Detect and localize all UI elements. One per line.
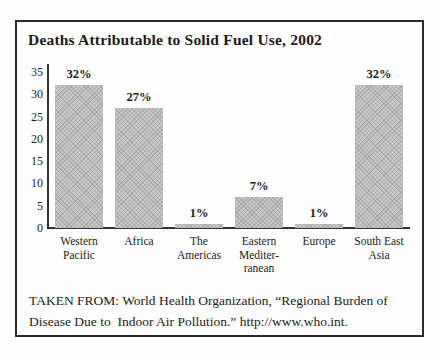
- x-tick-label: Africa: [109, 235, 169, 249]
- x-tick-label: WesternPacific: [49, 235, 109, 262]
- bar-value-label: 27%: [109, 91, 169, 103]
- bar: [115, 108, 163, 228]
- x-tick-label-line: Americas: [169, 249, 229, 263]
- x-tick-label: Europe: [289, 235, 349, 249]
- bar: [175, 224, 223, 229]
- bar-column: 32%: [49, 72, 109, 228]
- bar-value-label: 32%: [349, 68, 409, 80]
- y-tick-label: 25: [17, 111, 43, 123]
- y-tick-label: 35: [17, 66, 43, 78]
- bar: [295, 224, 343, 229]
- source-note: TAKEN FROM: World Health Organization, “…: [29, 290, 414, 332]
- x-tick-label-line: Europe: [289, 235, 349, 249]
- figure-frame: Deaths Attributable to Solid Fuel Use, 2…: [15, 20, 424, 337]
- source-note-line-1: TAKEN FROM: World Health Organization, “…: [29, 290, 414, 311]
- bar-value-label: 7%: [229, 180, 289, 192]
- x-tick-label-line: South East: [349, 235, 409, 249]
- bar-column: 1%: [169, 72, 229, 228]
- x-tick-label-line: Western: [49, 235, 109, 249]
- y-tick-label: 15: [17, 155, 43, 167]
- y-tick-label: 5: [17, 200, 43, 212]
- bar-column: 32%: [349, 72, 409, 228]
- source-note-line-2: Disease Due to Indoor Air Pollution.” ht…: [29, 311, 414, 332]
- plot-area: 32%27%1%7%1%32%: [49, 72, 410, 228]
- x-tick-label: South EastAsia: [349, 235, 409, 262]
- bar: [55, 85, 103, 228]
- bar: [355, 85, 403, 228]
- bar: [235, 197, 283, 228]
- x-tick-label-line: Asia: [349, 249, 409, 263]
- y-tick-label: 10: [17, 177, 43, 189]
- bar-column: 27%: [109, 72, 169, 228]
- x-tick-label: TheAmericas: [169, 235, 229, 262]
- x-tick-label-line: Mediter-: [229, 249, 289, 263]
- x-tick-label: EasternMediter-ranean: [229, 235, 289, 276]
- bar-column: 1%: [289, 72, 349, 228]
- y-axis-tick-labels: 35302520151050: [17, 22, 43, 252]
- bar-value-label: 1%: [289, 207, 349, 219]
- figure-page: Deaths Attributable to Solid Fuel Use, 2…: [0, 0, 439, 353]
- y-tick-label: 0: [17, 222, 43, 234]
- y-tick-label: 20: [17, 133, 43, 145]
- bar-value-label: 1%: [169, 207, 229, 219]
- x-tick-label-line: Pacific: [49, 249, 109, 263]
- x-tick-label-line: The: [169, 235, 229, 249]
- bar-value-label: 32%: [49, 68, 109, 80]
- y-tick-label: 30: [17, 88, 43, 100]
- x-tick-label-line: Africa: [109, 235, 169, 249]
- x-tick-label-line: Eastern: [229, 235, 289, 249]
- chart-title: Deaths Attributable to Solid Fuel Use, 2…: [28, 31, 322, 49]
- bar-column: 7%: [229, 72, 289, 228]
- x-tick-label-line: ranean: [229, 262, 289, 276]
